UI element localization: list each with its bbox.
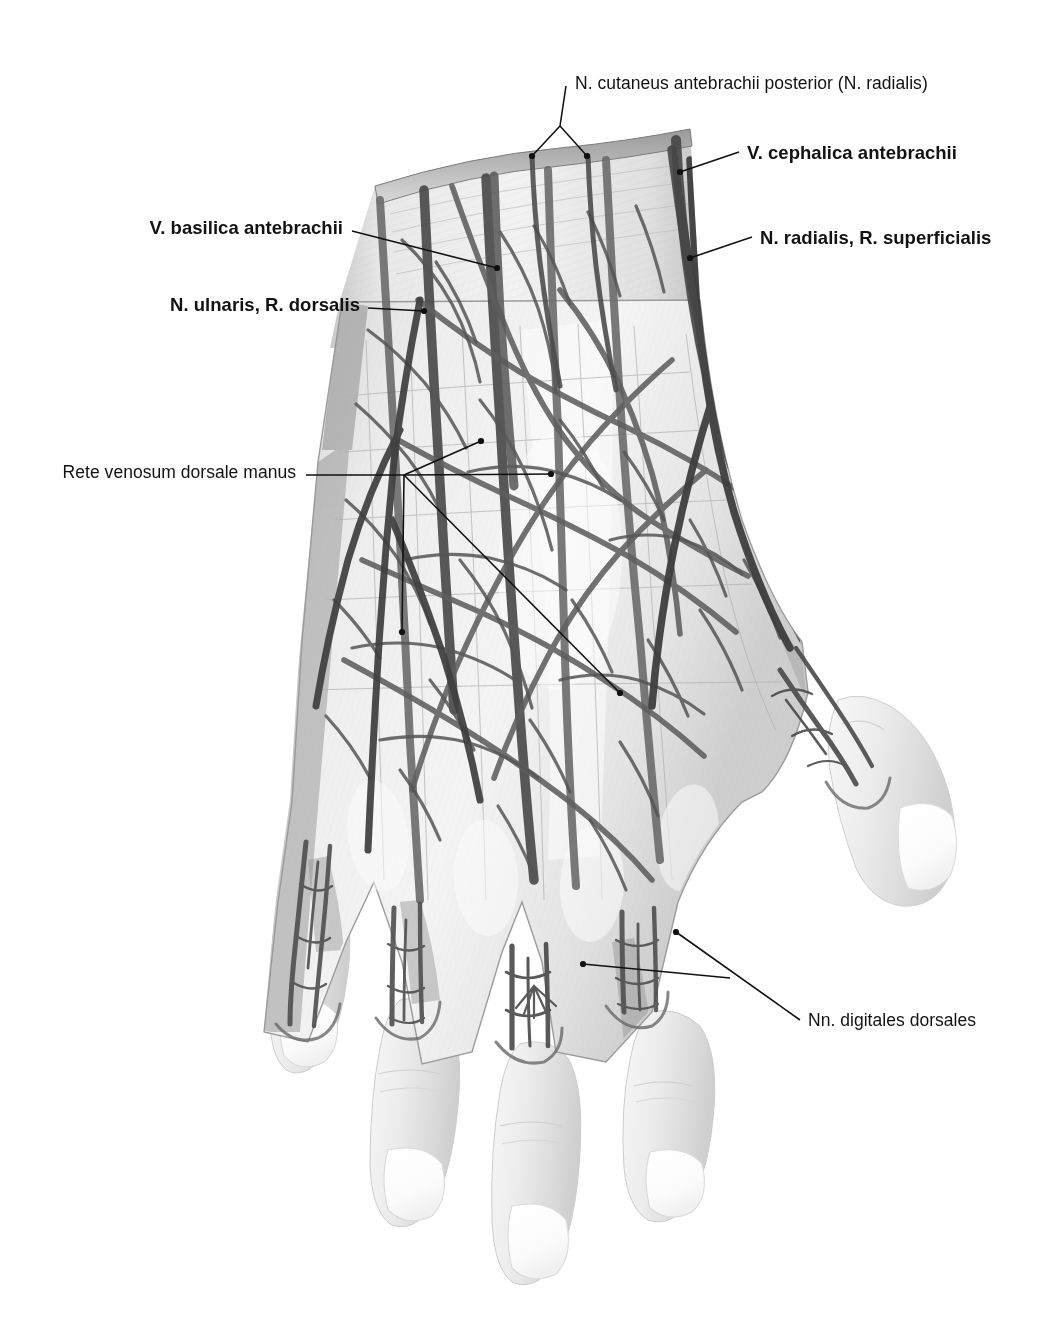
nail-middle xyxy=(508,1204,568,1279)
digit-middle xyxy=(492,1042,581,1285)
leader-rete-venosum-dorsale-manus-endpoint-1 xyxy=(548,471,554,477)
leader-rete-venosum-dorsale-manus-endpoint-3 xyxy=(399,629,405,635)
leader-n-ulnaris-r-dorsalis-endpoint-0 xyxy=(421,308,427,314)
label-v-basilica-antebrachii: V. basilica antebrachii xyxy=(150,218,343,239)
leader-n-cutaneus-antebrachii-posterior-endpoint-0 xyxy=(529,153,535,159)
label-n-cutaneus-antebrachii-posterior: N. cutaneus antebrachii posterior (N. ra… xyxy=(575,74,928,94)
nail-index xyxy=(646,1150,704,1217)
leader-v-basilica-antebrachii-endpoint-0 xyxy=(494,265,500,271)
leader-nn-digitales-dorsales-endpoint-1 xyxy=(580,961,586,967)
leader-rete-venosum-dorsale-manus-endpoint-2 xyxy=(617,690,623,696)
leader-n-cutaneus-antebrachii-posterior-endpoint-1 xyxy=(584,153,590,159)
nail-ring xyxy=(384,1148,444,1221)
label-n-ulnaris-r-dorsalis: N. ulnaris, R. dorsalis xyxy=(170,295,360,316)
leader-rete-venosum-dorsale-manus-endpoint-0 xyxy=(478,438,484,444)
hand-anatomy-illustration xyxy=(0,0,1038,1335)
label-nn-digitales-dorsales: Nn. digitales dorsales xyxy=(808,1011,976,1031)
label-n-radialis-r-superficialis: N. radialis, R. superficialis xyxy=(760,228,991,249)
label-rete-venosum-dorsale-manus: Rete venosum dorsale manus xyxy=(63,463,296,483)
label-v-cephalica-antebrachii: V. cephalica antebrachii xyxy=(747,143,957,164)
leader-n-radialis-r-superficialis-endpoint-0 xyxy=(687,255,693,261)
leader-nn-digitales-dorsales-endpoint-0 xyxy=(673,929,679,935)
leader-rete-venosum-dorsale-manus-segment-2 xyxy=(404,474,551,475)
leader-v-cephalica-antebrachii-endpoint-0 xyxy=(677,169,683,175)
digit-index xyxy=(623,1011,715,1222)
nail-thumb xyxy=(898,804,956,891)
anatomical-plate: N. cutaneus antebrachii posterior (N. ra… xyxy=(0,0,1038,1335)
